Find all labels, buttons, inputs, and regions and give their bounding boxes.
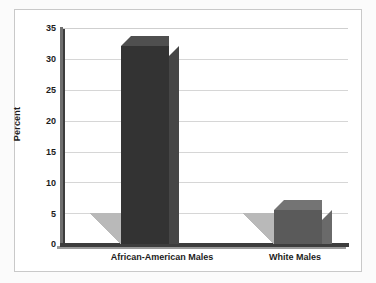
y-tick-label: 10	[32, 179, 56, 188]
bar-african-american-males[interactable]	[121, 46, 169, 244]
bar-front-face	[121, 46, 169, 244]
y-tick-label: 35	[32, 24, 56, 33]
gridline-30	[62, 59, 348, 60]
y-tick-label: 5	[32, 210, 56, 219]
gridline-25	[62, 90, 348, 91]
y-tick-label: 15	[32, 148, 56, 157]
x-tick-label-white-males: White Males	[240, 252, 350, 262]
gridline-35	[62, 28, 348, 29]
y-tick-label: 25	[32, 86, 56, 95]
bar-depth-right-face	[169, 46, 179, 244]
plot-area	[62, 28, 348, 244]
bar-depth-right-face	[322, 210, 332, 244]
gridline-10	[62, 182, 348, 183]
y-tick-label: 20	[32, 117, 56, 126]
y-axis-tick-labels: 35 30 25 20 15 10 5 0	[28, 0, 56, 283]
gridline-20	[62, 121, 348, 122]
x-tick-label-african-american-males: African-American Males	[82, 252, 242, 262]
bar-shadow	[243, 213, 274, 244]
bar-depth-top-face	[274, 200, 322, 210]
bar-depth-top-face	[121, 36, 169, 46]
bar-shadow	[90, 213, 121, 244]
y-tick-label: 30	[32, 55, 56, 64]
gridline-15	[62, 152, 348, 153]
y-tick-label: 0	[32, 240, 56, 249]
chart-figure: Percent 35 30 25 20 15 10 5 0	[0, 0, 376, 283]
y-axis-title: Percent	[12, 89, 22, 159]
y-axis-spine-face	[63, 29, 65, 245]
bar-front-face	[274, 210, 322, 244]
bar-white-males[interactable]	[274, 210, 322, 244]
